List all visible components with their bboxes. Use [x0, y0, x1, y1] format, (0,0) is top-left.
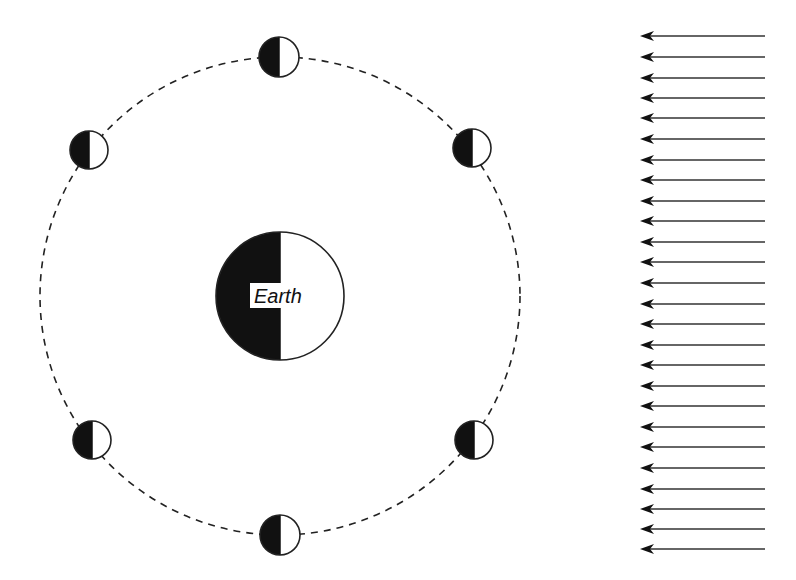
sunlight-arrow: [640, 73, 765, 83]
moon-top: [259, 37, 299, 77]
moon-bottom-dark-half: [260, 515, 280, 555]
moon-upper-left-dark-half: [70, 131, 89, 169]
sunlight-arrow: [640, 442, 765, 452]
sunlight-arrow: [640, 175, 765, 185]
moon-bottom: [260, 515, 300, 555]
sunlight-arrow: [640, 113, 765, 123]
moon-lower-right: [455, 421, 493, 459]
sunlight-arrow: [640, 155, 765, 165]
sunlight-arrow: [640, 524, 765, 534]
sunlight-arrow: [640, 401, 765, 411]
sunlight-arrow: [640, 484, 765, 494]
sunlight-arrow: [640, 134, 765, 144]
sunlight-arrow: [640, 381, 765, 391]
sunlight-arrow: [640, 299, 765, 309]
moon-lower-left-dark-half: [73, 421, 92, 459]
sunlight-arrows: [640, 31, 765, 554]
moon-lower-right-dark-half: [455, 421, 474, 459]
sunlight-arrow: [640, 340, 765, 350]
sunlight-arrow: [640, 257, 765, 267]
sunlight-arrow: [640, 196, 765, 206]
moon-top-dark-half: [259, 37, 279, 77]
sunlight-arrow: [640, 93, 765, 103]
sunlight-arrow: [640, 360, 765, 370]
moon-upper-right: [453, 129, 491, 167]
sunlight-arrow: [640, 237, 765, 247]
sunlight-arrow: [640, 216, 765, 226]
sunlight-arrow: [640, 504, 765, 514]
moon-lower-left: [73, 421, 111, 459]
moon-phase-diagram: [0, 0, 796, 580]
moon-upper-right-dark-half: [453, 129, 472, 167]
sunlight-arrow: [640, 544, 765, 554]
sunlight-arrow: [640, 319, 765, 329]
sunlight-arrow: [640, 422, 765, 432]
sunlight-arrow: [640, 278, 765, 288]
sunlight-arrow: [640, 463, 765, 473]
moon-upper-left: [70, 131, 108, 169]
earth-label: Earth: [254, 284, 302, 308]
sunlight-arrow: [640, 52, 765, 62]
sunlight-arrow: [640, 31, 765, 41]
